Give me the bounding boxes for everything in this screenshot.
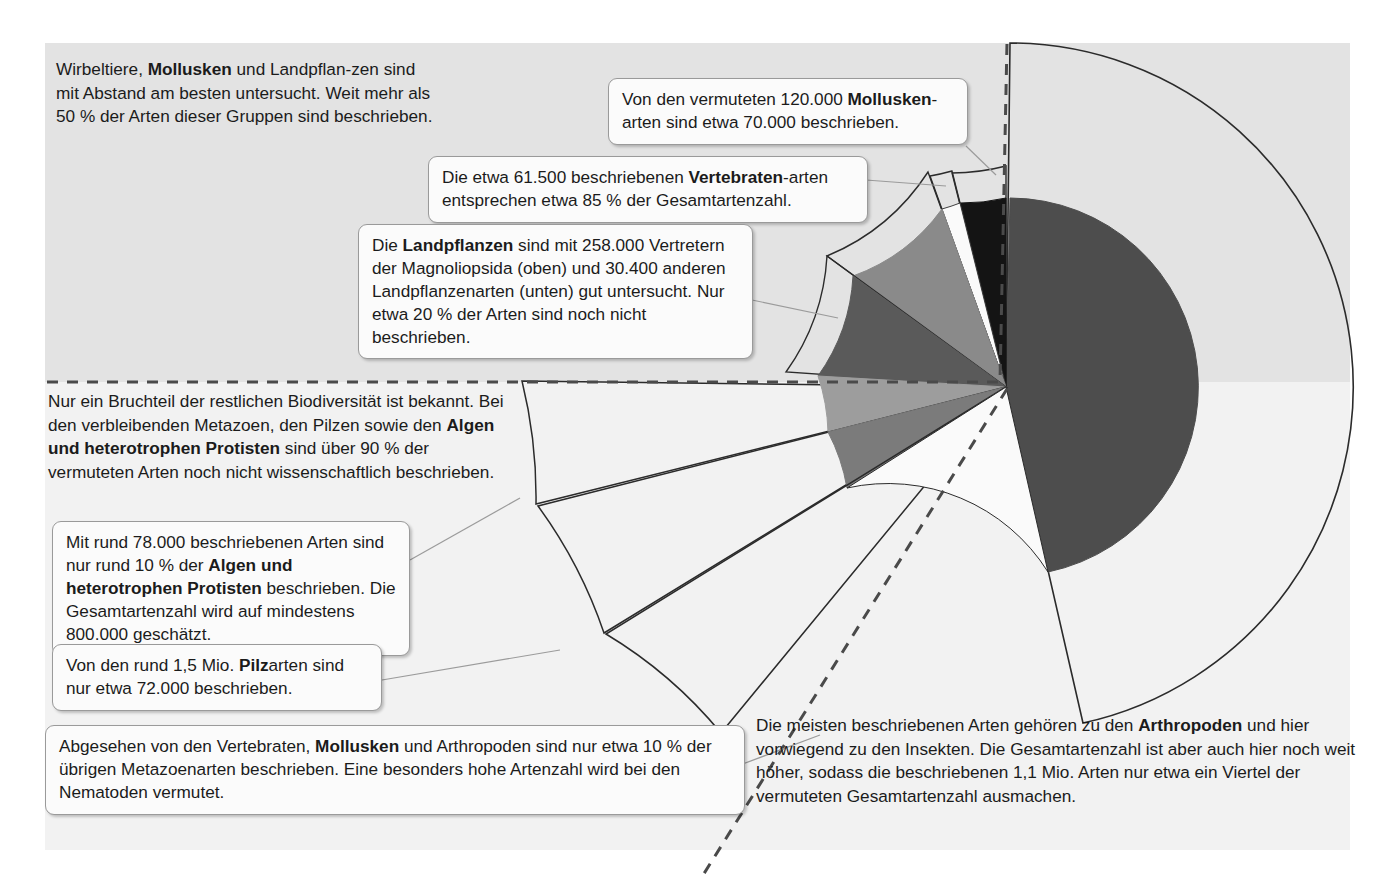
- callout-uebrige-metazoen: Abgesehen von den Vertebraten, Mollusken…: [45, 725, 745, 815]
- callout-pilze: Von den rund 1,5 Mio. Pilzarten sind nur…: [52, 644, 382, 711]
- figure-canvas: Wirbeltiere, Mollusken und Landpflan-zen…: [0, 0, 1390, 890]
- callout-landpflanzen: Die Landpflanzen sind mit 258.000 Vertre…: [358, 224, 753, 359]
- intro-top-text: Wirbeltiere, Mollusken und Landpflan-zen…: [56, 58, 436, 129]
- arthropoden-text: Die meisten beschriebenen Arten gehören …: [756, 714, 1366, 808]
- callout-algen: Mit rund 78.000 beschriebenen Arten sind…: [52, 521, 410, 656]
- callout-mollusken: Von den vermuteten 120.000 Mollusken-art…: [608, 78, 968, 145]
- intro-middle-text: Nur ein Bruchteil der restlichen Biodive…: [48, 390, 518, 484]
- callout-vertebraten: Die etwa 61.500 beschriebenen Vertebrate…: [428, 156, 868, 223]
